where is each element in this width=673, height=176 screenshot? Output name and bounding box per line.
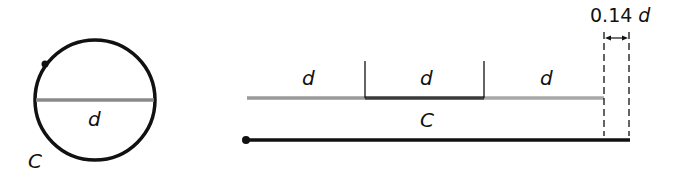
segment-label-2: d bbox=[420, 66, 433, 90]
diagram-canvas: d C d d d 0.14d C bbox=[0, 0, 673, 176]
start-point-dot bbox=[42, 61, 49, 68]
unrolled-circumference: C bbox=[242, 108, 630, 144]
diameter-label: d bbox=[88, 107, 101, 131]
remainder-dimension: 0.14d bbox=[590, 4, 651, 136]
diameter-segments: d d d bbox=[247, 61, 604, 98]
arrow-left-icon bbox=[605, 36, 611, 41]
arrow-right-icon bbox=[622, 36, 628, 41]
circle-figure: d C bbox=[28, 40, 155, 173]
segment-label-3: d bbox=[540, 66, 553, 90]
circumference-line-label: C bbox=[420, 108, 434, 132]
segment-label-1: d bbox=[302, 66, 315, 90]
start-point-dot bbox=[242, 136, 250, 144]
remainder-label: 0.14d bbox=[590, 4, 651, 26]
circumference-label: C bbox=[28, 149, 42, 173]
